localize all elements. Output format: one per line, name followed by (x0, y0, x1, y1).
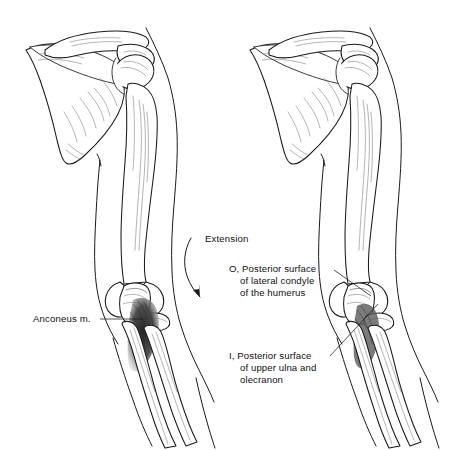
origin-label: O, Posterior surface of lateral condyle … (229, 263, 316, 298)
insertion-label-line-1: I, Posterior surface (229, 350, 312, 361)
anconeus-label: Anconeus m. (33, 313, 91, 324)
insertion-label-line-3: olecranon (240, 374, 283, 385)
forearm-contour-lateral-left (196, 378, 215, 448)
attachment-sites-panel: O, Posterior surface of lateral condyle … (229, 28, 439, 448)
insertion-label: I, Posterior surface of upper ulna and o… (229, 350, 316, 385)
extension-label: Extension (205, 233, 248, 244)
anatomy-figure: Extension Anconeus m. (0, 0, 453, 450)
extension-arrow (185, 238, 200, 297)
insertion-label-line-2: of upper ulna and (240, 362, 316, 373)
origin-label-line-1: O, Posterior surface (229, 263, 316, 274)
forearm-contour-lateral-right (420, 378, 439, 448)
origin-label-line-2: of lateral condyle (240, 275, 314, 286)
origin-label-line-3: of the humerus (240, 287, 305, 298)
anconeus-muscle-panel: Extension Anconeus m. (26, 28, 248, 448)
anatomy-canvas: Extension Anconeus m. (0, 0, 453, 450)
extension-arrowhead (193, 283, 200, 297)
